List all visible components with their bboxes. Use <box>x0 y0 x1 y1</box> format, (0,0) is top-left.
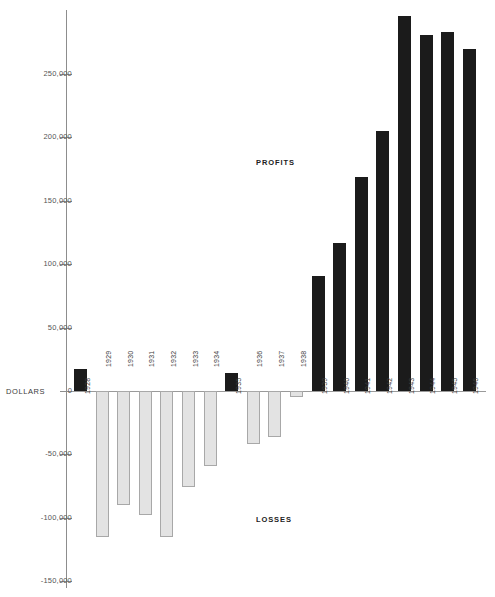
y-tick--150000: -150,000 <box>0 581 72 582</box>
x-tick-label-1939: 1939 <box>321 378 328 394</box>
bar-1932 <box>160 391 173 537</box>
bar-1931 <box>139 391 152 515</box>
y-axis-title: DOLLARS <box>6 387 45 396</box>
y-tick--100000: -100,000 <box>0 518 72 519</box>
profits-annotation: PROFITS <box>256 158 295 167</box>
bar-1934 <box>204 391 217 466</box>
bar-1933 <box>182 391 195 487</box>
bar-1944 <box>420 35 433 391</box>
y-tick-150000: 150,000 <box>0 201 72 202</box>
x-tick-label-1935: 1935 <box>235 378 242 394</box>
bar-chart-plot-area: 250,000200,000150,000100,00050,0000-50,0… <box>0 0 495 597</box>
bar-1937 <box>268 391 281 437</box>
x-tick-label-1946: 1946 <box>472 378 479 394</box>
x-tick-label-1943: 1943 <box>408 378 415 394</box>
y-tick-label: -100,000 <box>20 514 72 522</box>
x-tick-label-1938: 1938 <box>300 351 307 367</box>
y-tick-label: 100,000 <box>20 260 72 268</box>
bar-1941 <box>355 177 368 391</box>
bar-1930 <box>117 391 130 505</box>
x-tick-label-1942: 1942 <box>386 378 393 394</box>
y-tick-label: 250,000 <box>20 70 72 78</box>
bar-1946 <box>463 49 476 391</box>
x-tick-label-1933: 1933 <box>192 351 199 367</box>
y-tick-label: -50,000 <box>20 450 72 458</box>
x-tick-label-1930: 1930 <box>127 351 134 367</box>
bar-1945 <box>441 32 454 391</box>
bar-1942 <box>376 131 389 391</box>
x-tick-label-1941: 1941 <box>364 378 371 394</box>
y-tick-100000: 100,000 <box>0 264 72 265</box>
x-tick-label-1931: 1931 <box>148 351 155 367</box>
chart-page: 250,000200,000150,000100,00050,0000-50,0… <box>0 0 495 597</box>
x-tick-label-1944: 1944 <box>429 378 436 394</box>
y-tick-label: 200,000 <box>20 133 72 141</box>
y-tick--50000: -50,000 <box>0 454 72 455</box>
y-tick-label: 150,000 <box>20 197 72 205</box>
x-tick-label-1928: 1928 <box>84 378 91 394</box>
x-tick-label-1932: 1932 <box>170 351 177 367</box>
losses-annotation: LOSSES <box>256 515 292 524</box>
bar-1936 <box>247 391 260 444</box>
y-axis-line <box>66 10 67 588</box>
y-tick-250000: 250,000 <box>0 74 72 75</box>
x-tick-label-1936: 1936 <box>256 351 263 367</box>
x-tick-label-1945: 1945 <box>451 378 458 394</box>
y-tick-label: 50,000 <box>20 324 72 332</box>
bar-1940 <box>333 243 346 391</box>
y-tick-50000: 50,000 <box>0 328 72 329</box>
x-tick-label-1940: 1940 <box>343 378 350 394</box>
x-tick-label-1937: 1937 <box>278 351 285 367</box>
x-tick-label-1934: 1934 <box>213 351 220 367</box>
bar-1943 <box>398 16 411 391</box>
y-tick-200000: 200,000 <box>0 137 72 138</box>
y-tick-label: -150,000 <box>20 577 72 585</box>
bar-1939 <box>312 276 325 391</box>
bar-1938 <box>290 391 303 397</box>
bar-1929 <box>96 391 109 537</box>
x-tick-label-1929: 1929 <box>105 351 112 367</box>
